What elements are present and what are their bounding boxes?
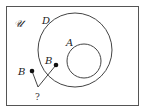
point-b-inside-label: B: [44, 55, 52, 66]
universe-label: 𝒰: [14, 18, 26, 29]
set-a-circle: [67, 44, 101, 78]
point-b-outside: [30, 69, 35, 74]
universe-frame: [7, 7, 139, 106]
set-d-label: D: [41, 15, 50, 26]
point-b-outside-label: B: [17, 66, 25, 77]
venn-diagram: 𝒰 D A B B ?: [0, 0, 144, 109]
question-mark-label: ?: [35, 92, 40, 102]
set-a-label: A: [65, 37, 73, 48]
question-connector: [32, 65, 56, 87]
point-b-inside: [54, 63, 59, 68]
